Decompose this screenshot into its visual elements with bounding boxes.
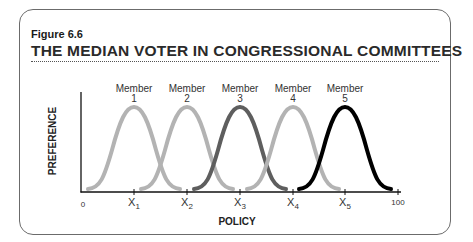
x-tick-x5: X5 [339,196,351,211]
x-tick-x2: X2 [181,196,193,211]
tick-subscript: 3 [241,202,245,211]
tick-subscript: 4 [294,202,298,211]
member-5-label: Member 5 [327,84,364,104]
y-axis-label: PREFERENCE [47,107,58,175]
tick-subscript: 5 [346,202,350,211]
tick-subscript: 1 [135,202,139,211]
x-tick-x4: X4 [287,196,299,211]
member-2-label: Member 2 [169,84,206,104]
member-number: 4 [275,94,312,104]
tick-subscript: 2 [188,202,192,211]
member-3-label: Member 3 [222,84,259,104]
x-tick-0: 0 [81,200,85,209]
member-number: 3 [222,94,259,104]
x-tick-100: 100 [391,198,404,207]
member-number: 2 [169,94,206,104]
member-number: 1 [116,94,153,104]
x-axis-label: POLICY [218,216,255,227]
x-tick-x3: X3 [234,196,246,211]
member-1-label: Member 1 [116,84,153,104]
member-4-label: Member 4 [275,84,312,104]
member-number: 5 [327,94,364,104]
x-tick-x1: X1 [128,196,140,211]
